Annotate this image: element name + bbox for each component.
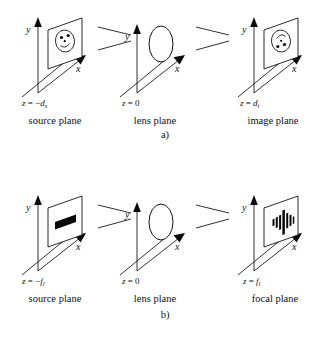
fringe-bar-7: [293, 216, 295, 224]
source-plane-quad: [48, 18, 82, 69]
panel-focal-b: z = fl focal plane y x: [238, 195, 302, 304]
fringe-bar-center: [282, 210, 285, 236]
x-axis-line: [137, 238, 179, 271]
fringe-bar-2: [276, 217, 278, 228]
fringe-bar-6: [290, 215, 292, 227]
y-axis-arrowhead: [250, 195, 258, 205]
x-axis-label-b3: x: [291, 241, 297, 252]
y-axis-label-a3: y: [241, 24, 247, 35]
y-axis-label-b1: y: [25, 202, 31, 213]
z-label-lens-a: z = 0: [121, 98, 140, 108]
panel-image-a: z = di image plane y x: [238, 17, 302, 126]
panel-source-b: z = −fl source plane y x: [21, 195, 86, 304]
fringe-bar-3: [279, 215, 281, 230]
y-axis-arrowhead: [250, 17, 258, 27]
ray-line-lower: [98, 219, 131, 228]
image-plane-quad: [264, 18, 298, 69]
plane-name-lens-b: lens plane: [134, 293, 177, 304]
caption-row-a: a): [161, 129, 170, 141]
lens-ellipse: [149, 26, 173, 62]
face-nose: [280, 40, 282, 42]
plane-name-lens-a: lens plane: [134, 115, 177, 126]
optics-figure: z = −ds source plane y x z = 0: [0, 0, 330, 351]
ray-line-upper: [196, 27, 229, 35]
plane-name-focal-b: focal plane: [252, 293, 299, 304]
x-axis-label-a1: x: [75, 63, 81, 74]
y-axis-arrowhead: [133, 202, 141, 212]
row-b: z = −fl source plane y x z = 0 lens plan…: [21, 195, 302, 321]
y-axis-label-a1: y: [25, 24, 31, 35]
x-axis-label-a2: x: [174, 63, 180, 74]
face-nose: [64, 40, 66, 42]
x-axis-label-b2: x: [174, 241, 180, 252]
lens-ellipse: [149, 204, 173, 240]
y-axis-arrowhead: [34, 195, 42, 205]
ray-lines-a-right: [196, 27, 229, 50]
panel-source-a: z = −ds source plane y x: [21, 17, 86, 126]
ray-line-upper: [196, 205, 229, 213]
panel-lens-b: z = 0 lens plane y x: [120, 202, 185, 304]
fringe-bar-1: [273, 219, 275, 226]
y-axis-arrowhead: [34, 17, 42, 27]
z-label-source-b: z = −fl: [21, 276, 45, 287]
ray-line-lower: [196, 41, 229, 50]
face-eye-left: [60, 36, 63, 39]
figure-canvas: z = −ds source plane y x z = 0: [0, 0, 330, 351]
z-label-image-a: z = di: [239, 98, 260, 109]
y-axis-label-b2: y: [124, 209, 130, 220]
y-axis-label-a2: y: [124, 31, 130, 42]
y-axis-label-b3: y: [241, 202, 247, 213]
z-label-focal-b: z = fl: [242, 276, 261, 287]
x-axis-label-b1: x: [75, 241, 81, 252]
ray-line-lower: [196, 219, 229, 228]
x-axis-label-a3: x: [291, 63, 297, 74]
face-eye-left: [283, 43, 286, 46]
ray-line-lower: [98, 41, 131, 50]
caption-row-b: b): [161, 309, 170, 321]
ray-lines-b-right: [196, 205, 229, 228]
z-label-lens-b: z = 0: [121, 276, 140, 286]
face-eye-right: [276, 45, 279, 48]
plane-name-image-a: image plane: [247, 115, 298, 126]
x-axis-line: [137, 60, 179, 93]
row-a: z = −ds source plane y x z = 0: [21, 17, 302, 141]
fringe-bar-5: [286, 213, 288, 229]
z-label-source-a: z = −ds: [21, 98, 48, 109]
y-axis-arrowhead: [133, 24, 141, 34]
plane-name-source-b: source plane: [29, 293, 82, 304]
face-eye-right: [67, 34, 70, 37]
panel-lens-a: z = 0 lens plane y x: [120, 24, 185, 126]
plane-name-source-a: source plane: [29, 115, 82, 126]
